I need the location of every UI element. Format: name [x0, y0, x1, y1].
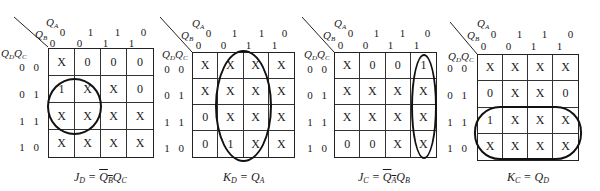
- cell: X: [269, 53, 294, 79]
- col-qb-3: 1: [261, 40, 288, 51]
- cell: X: [553, 108, 578, 134]
- row-hdr-1: 0 1: [157, 90, 187, 101]
- cell: 0: [101, 49, 127, 76]
- kmap-kd: QA QB QDQC 0 1 1 0 0 0 1 1 0 0 0 1 1 1 1…: [150, 0, 300, 191]
- cell: X: [193, 79, 218, 105]
- cell: X: [49, 103, 75, 130]
- cell: X: [503, 81, 528, 107]
- col-qa-1: 1: [363, 28, 390, 39]
- cell: X: [528, 81, 553, 107]
- cell: X: [269, 79, 294, 105]
- cell: X: [101, 76, 127, 103]
- col-qa-0: 0: [337, 28, 364, 39]
- cell: 0: [360, 131, 385, 157]
- row-hdr-1: 0 1: [440, 90, 470, 101]
- cell: X: [478, 134, 503, 160]
- col-qb-1: 0: [210, 40, 237, 51]
- cell: X: [75, 76, 101, 103]
- row-hdr-3: 1 0: [12, 142, 42, 153]
- kmap-kc: QA QB QDQC 0 1 1 0 0 0 1 1 0 0 0 1 1 1 1…: [450, 0, 600, 191]
- cell: X: [528, 134, 553, 160]
- col-qa-2: 1: [104, 27, 131, 38]
- cell: X: [75, 103, 101, 130]
- formula-jc: JC = QAQB: [358, 170, 410, 185]
- row-hdr-3: 1 0: [300, 143, 330, 154]
- cell: X: [49, 130, 75, 157]
- cell: X: [503, 134, 528, 160]
- col-qb-0: 0: [470, 41, 497, 52]
- row-hdr-2: 1 1: [12, 116, 42, 127]
- cell: X: [244, 105, 269, 131]
- row-hdr-1: 0 1: [300, 90, 330, 101]
- col-qa-1: 1: [221, 28, 248, 39]
- cell: X: [75, 130, 101, 157]
- cell: X: [553, 134, 578, 160]
- cell: X: [218, 79, 243, 105]
- col-qb-3: 1: [403, 40, 430, 51]
- cell: X: [269, 105, 294, 131]
- col-qb-0: 0: [327, 40, 354, 51]
- cell: 1: [411, 53, 436, 79]
- cell: X: [101, 103, 127, 130]
- cell: X: [218, 53, 243, 79]
- row-hdr-1: 0 1: [12, 89, 42, 100]
- cell: 0: [193, 131, 218, 157]
- cell: X: [49, 49, 75, 76]
- kmap-grid: X X X X 0 X X 0 1 X X X X X X X: [477, 54, 579, 161]
- cell: X: [335, 105, 360, 131]
- row-hdr-2: 1 1: [157, 117, 187, 128]
- cell: 0: [478, 81, 503, 107]
- col-qa-1: 1: [506, 29, 533, 40]
- cell: X: [528, 55, 553, 81]
- cell: X: [386, 79, 411, 105]
- col-qa-3: 0: [271, 28, 298, 39]
- cell: X: [360, 79, 385, 105]
- col-qa-0: 0: [480, 29, 507, 40]
- row-hdr-2: 1 1: [440, 117, 470, 128]
- cell: 0: [75, 49, 101, 76]
- cell: X: [411, 105, 436, 131]
- cell: X: [386, 131, 411, 157]
- col-qb-0: 0: [185, 40, 212, 51]
- cell: 0: [360, 53, 385, 79]
- formula-kd: KD = QA: [223, 170, 264, 185]
- cell: X: [244, 53, 269, 79]
- row-hdr-3: 1 0: [440, 143, 470, 154]
- row-hdr-0: 0 0: [440, 63, 470, 74]
- cell: X: [386, 105, 411, 131]
- cell: X: [478, 55, 503, 81]
- row-hdr-2: 1 1: [300, 117, 330, 128]
- cell: X: [360, 105, 385, 131]
- cell: X: [411, 79, 436, 105]
- label-qdqc: QDQC: [1, 48, 27, 61]
- cell: X: [553, 55, 578, 81]
- col-qa-3: 0: [557, 29, 584, 40]
- cell: 0: [553, 81, 578, 107]
- cell: X: [244, 131, 269, 157]
- kmap-grid: X X X X X X X X 0 X X X 0 1 X X: [192, 52, 295, 158]
- cell: 1: [478, 108, 503, 134]
- cell: 0: [193, 105, 218, 131]
- cell: X: [335, 53, 360, 79]
- label-qdqc: QDQC: [162, 49, 188, 62]
- row-hdr-0: 0 0: [300, 64, 330, 75]
- cell: X: [218, 105, 243, 131]
- cell: 1: [49, 76, 75, 103]
- col-qa-2: 1: [531, 29, 558, 40]
- col-qb-1: 0: [352, 40, 379, 51]
- cell: 1: [218, 131, 243, 157]
- cell: 0: [335, 131, 360, 157]
- row-hdr-0: 0 0: [157, 64, 187, 75]
- row-hdr-0: 0 0: [12, 62, 42, 73]
- cell: X: [244, 79, 269, 105]
- cell: X: [528, 108, 553, 134]
- formula-kc: KC = QD: [507, 170, 549, 185]
- col-qb-3: 1: [546, 41, 573, 52]
- col-qb-2: 1: [520, 41, 547, 52]
- kmap-grid: X 0 0 0 1 X X 0 X X X X X X X X: [48, 48, 154, 158]
- cell: X: [335, 79, 360, 105]
- cell: X: [269, 131, 294, 157]
- cell: 0: [386, 53, 411, 79]
- cell: X: [193, 53, 218, 79]
- col-qb-2: 1: [235, 40, 262, 51]
